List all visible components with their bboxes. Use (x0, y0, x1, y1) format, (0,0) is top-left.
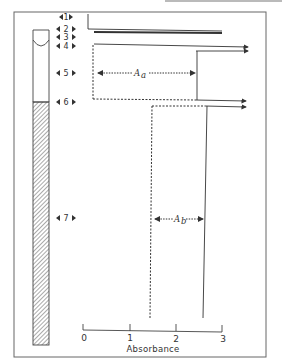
zone-label-1: 1 (59, 13, 73, 22)
svg-text:5: 5 (63, 69, 68, 78)
lower-profile (150, 106, 207, 318)
upper-profile (88, 14, 248, 107)
zone-2-3-line (94, 32, 222, 33)
zone-4-line (94, 44, 248, 47)
svg-text:4: 4 (63, 42, 68, 51)
svg-text:b: b (181, 216, 186, 226)
zone-label-6: 6 (56, 98, 76, 107)
absorbance-a-annotation: A a (98, 68, 195, 80)
zone-7-solid (203, 106, 207, 318)
tick-label-1: 1 (127, 333, 133, 343)
svg-text:3: 3 (63, 33, 68, 42)
zone-6-line (196, 100, 246, 101)
absorbance-b-annotation: A b (155, 214, 203, 226)
zone-labels: 1 2 3 4 5 6 7 (56, 13, 76, 223)
tube-clear-section (33, 30, 49, 102)
zone-1-line (88, 14, 222, 31)
svg-text:A: A (173, 214, 180, 224)
zone-7-dashed (150, 106, 152, 318)
zone-6-line-b (205, 106, 246, 107)
tube (33, 30, 49, 345)
svg-text:1: 1 (63, 13, 68, 22)
tick-label-0: 0 (81, 333, 87, 343)
zone-label-5: 5 (56, 69, 76, 78)
tube-sediment-hatched (33, 102, 49, 345)
figure-frame (14, 12, 266, 357)
axis-title: Absorbance (126, 344, 179, 354)
svg-text:7: 7 (63, 214, 68, 223)
absorbance-axis (83, 324, 222, 332)
zone-label-3: 3 (56, 33, 76, 42)
zone-label-7: 7 (56, 214, 76, 223)
zone-5-dashed-bottom (93, 99, 196, 100)
svg-text:a: a (141, 70, 146, 80)
absorbance-diagram: 1 2 3 4 5 6 7 A a A b (0, 0, 282, 363)
svg-text:A: A (133, 68, 140, 78)
axis-line (83, 330, 222, 332)
tick-label-3: 3 (220, 334, 226, 344)
tick-label-2: 2 (173, 334, 179, 344)
svg-text:6: 6 (63, 98, 68, 107)
zone-label-4: 4 (56, 42, 76, 51)
